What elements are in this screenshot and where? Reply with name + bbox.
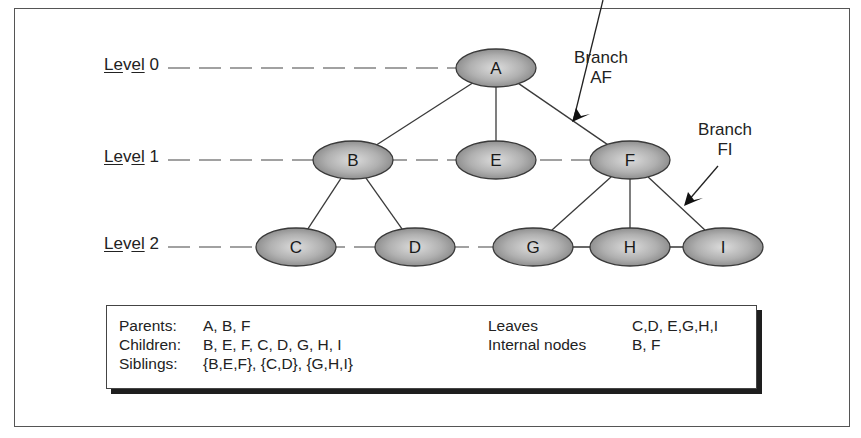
legend-right-column: LeavesC,D, E,G,H,I Internal nodesB, F bbox=[488, 316, 718, 354]
node-label: I bbox=[721, 238, 726, 257]
edge-AB bbox=[377, 83, 472, 144]
edge-AF bbox=[519, 84, 607, 145]
node-A: A bbox=[456, 49, 536, 87]
legend-internal-nodes: Internal nodesB, F bbox=[488, 335, 718, 354]
node-label: G bbox=[526, 238, 539, 257]
node-G: G bbox=[493, 228, 573, 266]
level-1-label: Level 1 bbox=[104, 147, 159, 167]
level-0-label: Level 0 bbox=[104, 55, 159, 75]
edge-FG bbox=[552, 177, 612, 230]
legend-leaves: LeavesC,D, E,G,H,I bbox=[488, 316, 718, 335]
tree-nodes: ABEFCDGHI bbox=[256, 49, 763, 266]
node-label: D bbox=[409, 238, 421, 257]
legend-box: Parents:A, B, F Children:B, E, F, C, D, … bbox=[106, 305, 757, 389]
edge-BC bbox=[308, 178, 341, 229]
node-label: F bbox=[625, 151, 635, 170]
node-label: H bbox=[624, 238, 636, 257]
node-label: B bbox=[347, 151, 358, 170]
legend-siblings: Siblings:{B,E,F}, {C,D}, {G,H,I} bbox=[119, 354, 353, 373]
edge-BD bbox=[366, 178, 402, 229]
legend-parents: Parents:A, B, F bbox=[119, 316, 353, 335]
branch-fi-label: Branch FI bbox=[690, 120, 760, 160]
node-label: E bbox=[490, 151, 501, 170]
node-I: I bbox=[683, 228, 763, 266]
node-label: C bbox=[290, 238, 302, 257]
node-C: C bbox=[256, 228, 336, 266]
node-F: F bbox=[590, 141, 670, 179]
legend-children: Children:B, E, F, C, D, G, H, I bbox=[119, 335, 353, 354]
arrow-fi-shaft bbox=[688, 166, 718, 201]
branch-af-label: Branch AF bbox=[566, 48, 636, 88]
legend-left-column: Parents:A, B, F Children:B, E, F, C, D, … bbox=[119, 316, 353, 373]
node-E: E bbox=[456, 141, 536, 179]
node-B: B bbox=[313, 141, 393, 179]
edge-FI bbox=[648, 177, 705, 230]
node-D: D bbox=[375, 228, 455, 266]
node-label: A bbox=[490, 59, 502, 78]
arrow-af-head-icon bbox=[572, 108, 590, 122]
node-H: H bbox=[590, 228, 670, 266]
level-2-label: Level 2 bbox=[104, 234, 159, 254]
